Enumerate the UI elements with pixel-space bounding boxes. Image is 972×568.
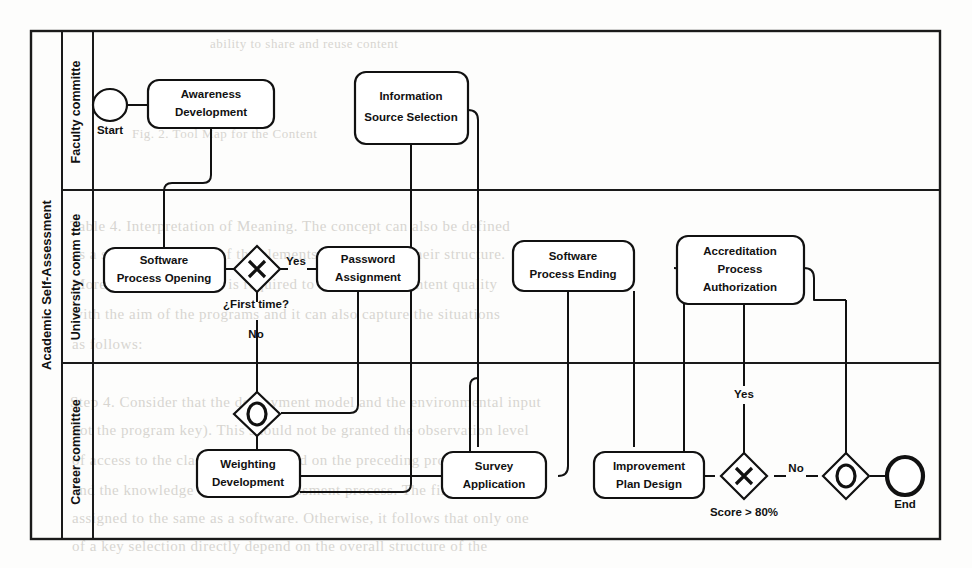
lane-label-faculty: Faculty committe	[69, 61, 83, 164]
task-awareness-development[interactable]: Awareness Development	[148, 80, 274, 128]
task-software-process-opening-label-line2: Process Opening	[117, 272, 212, 284]
gateway-first-time[interactable]: ¿First time?	[223, 246, 289, 311]
gateway-merge-2-diamond[interactable]	[823, 453, 869, 499]
task-password-assignment-label-line2: Assignment	[335, 271, 401, 283]
end-event-label: End	[894, 498, 916, 510]
task-accreditation-label-line1: Accreditation	[703, 245, 777, 257]
lane-label-university: University comm ttee	[69, 214, 83, 340]
lane-label-career: Career committee	[69, 399, 83, 505]
task-software-process-opening-label-line1: Software	[140, 254, 189, 266]
flow-label-first-time-no: No	[248, 328, 263, 340]
task-weighting-development-label-line1: Weighting	[220, 458, 275, 470]
flow-infosource-to-weighting	[300, 144, 411, 492]
flow-label-score-no: No	[788, 462, 803, 474]
gateway-merge-1[interactable]	[234, 392, 280, 436]
start-event-label: Start	[97, 124, 123, 136]
task-software-process-ending-box[interactable]	[513, 241, 634, 291]
task-weighting-development[interactable]: Weighting Development	[197, 450, 300, 497]
task-password-assignment[interactable]: Password Assignment	[317, 247, 419, 291]
end-event-circle[interactable]	[887, 457, 923, 495]
task-software-process-opening[interactable]: Software Process Opening	[104, 248, 225, 292]
start-event[interactable]: Start	[93, 89, 127, 136]
gateway-first-time-label: ¿First time?	[223, 298, 289, 311]
task-accreditation-label-line2: Process	[718, 263, 763, 275]
task-accreditation-process-authorization[interactable]: Accreditation Process Authorization	[677, 236, 804, 304]
pool-label: Academic Self-Assessment	[39, 199, 54, 369]
task-survey-application[interactable]: Survey Application	[442, 452, 546, 498]
gateway-score[interactable]: Score > 80%	[710, 453, 778, 518]
gateway-score-label: Score > 80%	[710, 506, 778, 518]
flow-accreditation-to-merge2	[804, 268, 846, 453]
task-survey-application-label-line1: Survey	[475, 460, 514, 472]
task-survey-application-box[interactable]	[442, 452, 546, 498]
task-information-source-selection-label-line2: Source Selection	[364, 111, 457, 123]
flow-awareness-to-sw-opening	[164, 128, 211, 248]
task-information-source-selection-label-line1: Information	[379, 90, 442, 102]
task-improvement-plan-design-label-line2: Plan Design	[616, 478, 682, 490]
flow-label-first-time-yes: Yes	[286, 255, 306, 267]
task-password-assignment-label-line1: Password	[341, 253, 395, 265]
task-accreditation-label-line3: Authorization	[703, 281, 777, 293]
task-survey-application-label-line2: Application	[463, 478, 526, 490]
task-software-process-ending[interactable]: Software Process Ending	[513, 241, 634, 291]
gateway-merge-2[interactable]	[823, 453, 869, 499]
task-improvement-plan-design-box[interactable]	[594, 452, 704, 498]
end-event[interactable]: End	[887, 457, 923, 510]
task-awareness-development-label-line2: Development	[175, 106, 247, 118]
task-weighting-development-label-line2: Development	[212, 476, 284, 488]
task-improvement-plan-design-label-line1: Improvement	[613, 460, 685, 472]
bpmn-diagram: Academic Self-Assessment Faculty committ…	[0, 0, 972, 568]
task-software-process-ending-label-line2: Process Ending	[530, 268, 617, 280]
flow-label-score-yes: Yes	[734, 388, 754, 400]
flow-password-to-merge1	[281, 291, 358, 413]
gateway-merge-1-diamond[interactable]	[234, 392, 280, 436]
task-information-source-selection[interactable]: Information Source Selection	[355, 72, 468, 144]
task-improvement-plan-design[interactable]: Improvement Plan Design	[594, 452, 704, 498]
task-software-process-ending-label-line1: Software	[549, 250, 598, 262]
flow-survey-to-sw-ending	[558, 291, 568, 476]
task-awareness-development-label-line1: Awareness	[181, 88, 242, 100]
start-event-circle[interactable]	[93, 89, 127, 121]
task-information-source-selection-box[interactable]	[355, 72, 468, 144]
